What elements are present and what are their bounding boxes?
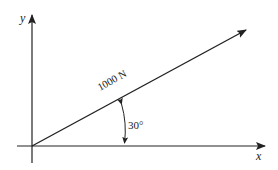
force-vector-diagram: y x 1000 N 30° (0, 0, 278, 170)
x-axis-label: x (255, 149, 262, 163)
angle-arc (122, 104, 126, 143)
angle-label: 30° (128, 119, 143, 131)
force-magnitude-label: 1000 N (96, 68, 129, 93)
y-axis-label: y (19, 11, 26, 25)
